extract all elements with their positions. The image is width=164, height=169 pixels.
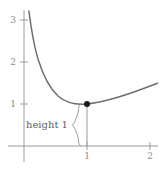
- y-tick-label-1: 1: [4, 100, 16, 109]
- plot-canvas: [0, 0, 164, 169]
- y-tick-label-2: 2: [4, 58, 16, 67]
- x-tick-label-2: 2: [144, 152, 156, 161]
- height-annotation-label: height 1: [26, 120, 68, 130]
- y-tick-label-3: 3: [4, 16, 16, 25]
- hyperbola-curve: [29, 11, 158, 104]
- point-marker-1-1: [84, 101, 90, 107]
- height-brace: [73, 105, 81, 146]
- x-tick-label-1: 1: [81, 152, 93, 161]
- hyperbola-figure: 3 2 1 1 2 height 1: [0, 0, 164, 169]
